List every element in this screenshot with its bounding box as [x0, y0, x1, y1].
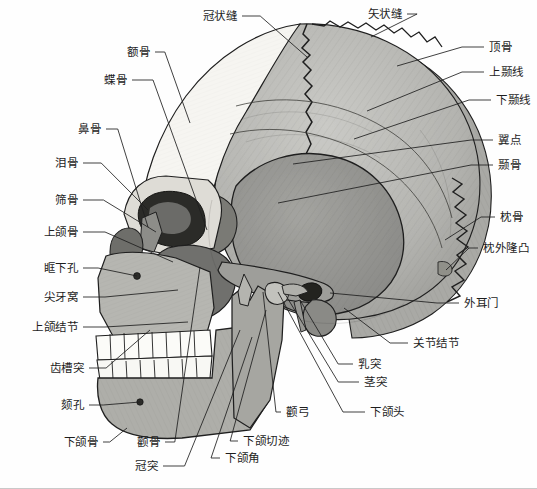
- label-mandibular-head: 下颌头: [370, 406, 405, 418]
- skull-illustration: [0, 0, 537, 489]
- label-canine-fossa: 尖牙窝: [44, 291, 79, 303]
- label-lacrimal-bone: 泪骨: [55, 157, 78, 169]
- label-occipital-bone: 枕骨: [500, 211, 523, 223]
- label-maxilla: 上颌骨: [44, 226, 79, 238]
- label-mandibular-angle: 下颌角: [225, 452, 260, 464]
- label-articular-tubercle: 关节结节: [413, 337, 459, 349]
- label-nasal-bone: 鼻骨: [78, 123, 101, 135]
- label-inferior-temporal-line: 下颞线: [496, 94, 531, 106]
- label-superior-temporal-line: 上颞线: [489, 66, 524, 78]
- label-zygomatic-arch: 颧弓: [286, 406, 309, 418]
- label-temporal-bone: 颞骨: [498, 159, 521, 171]
- label-frontal-bone: 额骨: [127, 46, 150, 58]
- label-maxillary-tuberosity: 上颌结节: [32, 321, 78, 333]
- label-zygomatic-bone: 颧骨: [137, 436, 160, 448]
- label-mandible: 下颌骨: [64, 436, 99, 448]
- label-mandibular-notch: 下颌切迹: [243, 435, 289, 447]
- label-coronoid-process: 冠突: [135, 460, 158, 472]
- skull-lateral-figure: 冠状缝矢状缝顶骨上颞线下颞线翼点颞骨枕骨枕外隆凸外耳门关节结节额骨蝶骨鼻骨泪骨筛…: [0, 0, 537, 489]
- label-sagittal-suture: 矢状缝: [368, 8, 403, 20]
- label-coronal-suture: 冠状缝: [203, 10, 238, 22]
- lower-teeth: [97, 356, 212, 380]
- label-alveolar-process: 齿槽突: [50, 362, 85, 374]
- label-parietal-bone: 顶骨: [489, 41, 512, 53]
- label-sphenoid-bone: 蝶骨: [104, 74, 127, 86]
- label-occipital-protuberance: 枕外隆凸: [483, 242, 529, 254]
- label-infraorbital-foramen: 眶下孔: [44, 262, 79, 274]
- label-mental-foramen: 颏孔: [61, 399, 84, 411]
- label-ethmoid-bone: 筛骨: [55, 194, 78, 206]
- label-mastoid-process: 乳突: [358, 358, 381, 370]
- label-pterion: 翼点: [498, 134, 521, 146]
- label-styloid-process: 茎突: [364, 376, 387, 388]
- label-external-acoustic-meatus: 外耳门: [464, 297, 499, 309]
